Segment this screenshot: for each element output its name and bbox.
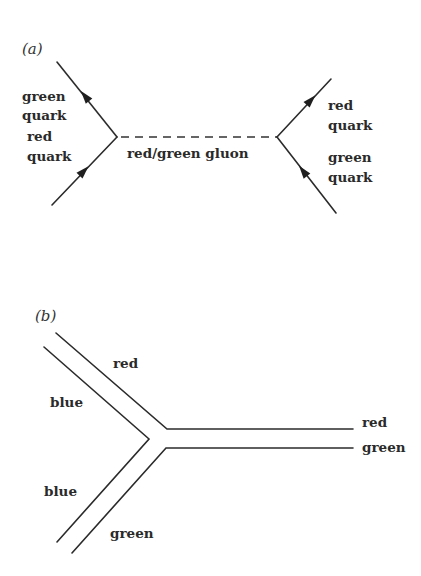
label-green-right: green xyxy=(362,439,406,455)
panel-a-label: (a) xyxy=(22,40,43,58)
blue-color-line xyxy=(44,347,149,542)
label-green-quark-right-2: quark xyxy=(328,169,373,185)
panel-b-label: (b) xyxy=(35,307,56,325)
panel-b-color-flow: (b) redbluebluegreenredgreen xyxy=(35,307,406,553)
label-green-quark-right: green xyxy=(328,149,372,165)
label-blue-lower: blue xyxy=(44,483,77,499)
label-red-quark-left: red xyxy=(27,128,53,144)
label-gluon: red/green gluon xyxy=(127,145,249,161)
label-red-upper: red xyxy=(113,355,139,371)
label-red-quark-right: red xyxy=(328,97,354,113)
red-color-line xyxy=(56,333,353,429)
label-green-quark-top-2: quark xyxy=(22,107,67,123)
label-green-lower: green xyxy=(110,525,154,541)
label-green-quark-top: green xyxy=(22,88,66,104)
label-red-right: red xyxy=(362,414,388,430)
label-blue-upper: blue xyxy=(50,394,83,410)
feynman-diagram-figure: (a) greenquarkredquarkred/green gluonred… xyxy=(0,0,421,576)
outgoing-red-quark-line xyxy=(277,79,331,137)
panel-a-quark-gluon-exchange: (a) greenquarkredquarkred/green gluonred… xyxy=(22,40,373,213)
label-red-quark-right-2: quark xyxy=(328,117,373,133)
arrow-up-left-icon xyxy=(81,91,92,104)
color-flow-lines xyxy=(44,333,353,553)
label-red-quark-left-2: quark xyxy=(27,148,72,164)
